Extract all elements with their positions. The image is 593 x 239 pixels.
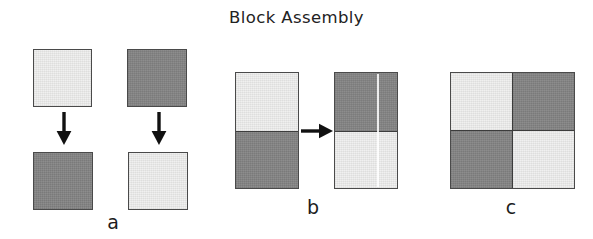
panel-a-bottom-right-block [128,152,188,210]
panel-c-grid-cell-bottom-left [451,131,513,189]
panel-b-right-stack [334,72,398,189]
panel-c-grid-cell-top-left [451,73,513,131]
panel-a-bottom-left-block [33,152,93,210]
panel-c-grid-cell-top-right [513,73,575,131]
panel-a-arrow-down-right-icon [148,111,170,147]
figure-title: Block Assembly [0,8,593,27]
panel-b-label: b [293,196,333,218]
panel-b-right-stack-bottom [335,131,397,189]
panel-c-label: c [491,196,531,218]
panel-a-arrow-down-left-icon [53,111,75,147]
panel-a-top-right-block [127,49,187,107]
panel-b-left-stack [235,72,299,189]
panel-c-grid [450,72,575,189]
panel-a-top-left-block [33,49,92,107]
panel-b-scan-artifact [377,74,379,187]
panel-b-left-stack-bottom [236,131,298,189]
block-assembly-figure: Block Assembly a b [0,0,593,239]
panel-a-label: a [93,211,133,233]
panel-b-right-stack-top [335,73,397,131]
panel-b-left-stack-top [236,73,298,131]
panel-b-arrow-right-icon [300,120,334,142]
panel-c-grid-cell-bottom-right [513,131,575,189]
